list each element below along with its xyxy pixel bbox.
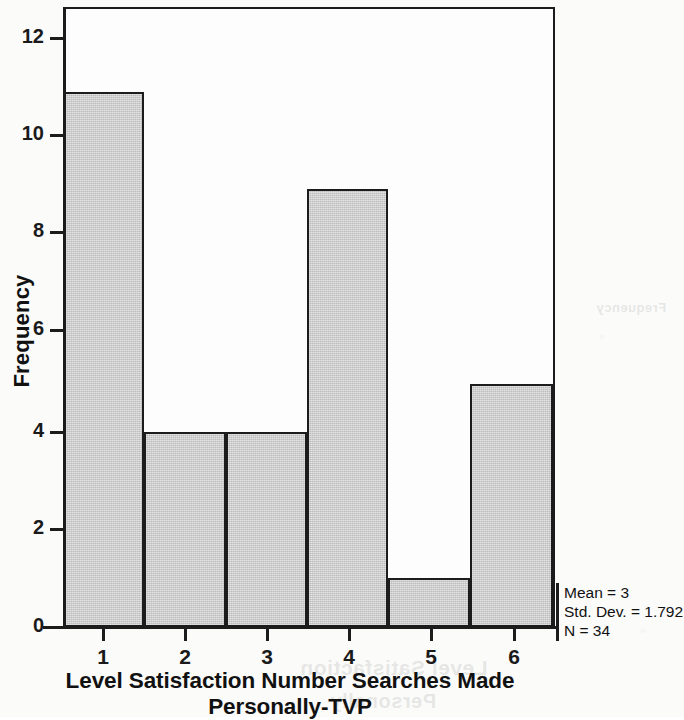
y-axis-tick bbox=[50, 329, 64, 332]
y-axis-tick bbox=[50, 431, 64, 434]
statistic-std-dev: Std. Dev. = 1.792 bbox=[564, 602, 683, 621]
bar-category-4 bbox=[307, 189, 388, 627]
y-axis-tick bbox=[50, 37, 64, 40]
x-axis-line bbox=[43, 626, 559, 629]
statistics-bracket bbox=[556, 583, 559, 641]
bar-category-1 bbox=[64, 92, 144, 627]
y-axis-title: Frequency bbox=[9, 221, 35, 441]
x-axis-tick bbox=[348, 628, 351, 641]
x-axis-tick bbox=[266, 628, 269, 641]
x-axis-tick-label: 1 bbox=[83, 645, 123, 669]
bleed-through-text: Frequency bbox=[596, 300, 666, 315]
x-axis-tick bbox=[102, 628, 105, 641]
x-axis-tick-label: 2 bbox=[165, 645, 205, 669]
bar-category-3 bbox=[226, 432, 307, 627]
y-axis-tick bbox=[50, 231, 64, 234]
statistic-mean: Mean = 3 bbox=[564, 583, 683, 602]
x-axis-tick-label: 6 bbox=[494, 645, 534, 669]
y-axis-tick-label: 0 bbox=[4, 614, 44, 637]
y-axis-tick bbox=[50, 626, 64, 629]
statistics-text: Mean = 3 Std. Dev. = 1.792 N = 34 bbox=[564, 583, 683, 641]
y-axis-tick bbox=[50, 134, 64, 137]
y-axis-tick-label: 10 bbox=[4, 122, 44, 145]
x-axis-tick bbox=[184, 628, 187, 641]
x-axis-tick-label: 4 bbox=[329, 645, 369, 669]
x-axis-tick-label: 5 bbox=[411, 645, 451, 669]
y-axis-tick-label: 2 bbox=[4, 516, 44, 539]
bar-category-6 bbox=[470, 384, 553, 627]
x-axis-tick bbox=[513, 628, 516, 641]
x-axis-tick bbox=[430, 628, 433, 641]
bars-layer bbox=[64, 7, 555, 627]
statistics-annotation: Mean = 3 Std. Dev. = 1.792 N = 34 bbox=[556, 583, 683, 641]
x-axis-title: Level Satisfaction Number Searches Made … bbox=[20, 668, 560, 720]
statistic-n: N = 34 bbox=[564, 621, 683, 640]
x-axis-tick-label: 3 bbox=[247, 645, 287, 669]
y-axis-line bbox=[63, 7, 66, 628]
bar-category-2 bbox=[144, 432, 226, 627]
x-axis-title-line-1: Level Satisfaction Number Searches Made bbox=[20, 668, 560, 694]
bar-category-5 bbox=[388, 578, 470, 627]
y-axis-tick-label: 12 bbox=[4, 25, 44, 48]
y-axis-tick bbox=[50, 528, 64, 531]
x-axis-title-line-2: Personally-TVP bbox=[20, 694, 560, 720]
